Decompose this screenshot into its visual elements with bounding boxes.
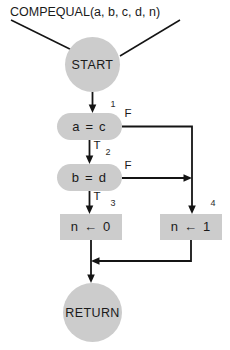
flowchart-diagram: COMPEQUAL(a, b, c, d, n) START 1 a = c F…: [0, 0, 230, 350]
decision2-node-label: b = d: [72, 170, 107, 185]
flowchart-canvas: COMPEQUAL(a, b, c, d, n) START 1 a = c F…: [0, 0, 230, 350]
procedure-title: COMPEQUAL(a, b, c, d, n): [10, 5, 160, 19]
branch-label-decision1-true: T: [93, 139, 100, 151]
step-number-4: 4: [210, 198, 215, 208]
edge-process-right-to-merge: [98, 240, 191, 261]
start-node-label: START: [72, 58, 114, 72]
step-number-1: 1: [110, 99, 115, 109]
arrowhead-start-to-decision1: [89, 105, 97, 114]
title-leader-line-right: [120, 20, 180, 56]
step-number-3: 3: [110, 198, 115, 208]
branch-label-decision2-false: F: [124, 159, 131, 171]
arrowhead-process-right-merge: [91, 257, 100, 265]
end-node-label: RETURN: [65, 306, 119, 320]
branch-label-decision2-true: T: [93, 190, 100, 202]
arrowhead-decision2-to-process-left: [86, 206, 94, 215]
branch-label-decision1-false: F: [124, 107, 131, 119]
arrowhead-decision1-to-decision2: [86, 156, 94, 165]
arrowhead-decision1-false: [188, 206, 196, 215]
process-left-node-label: n ← 0: [71, 219, 112, 234]
edge-decision1-false: [122, 127, 192, 208]
step-number-2: 2: [105, 147, 110, 157]
arrowhead-decision2-false: [184, 174, 193, 182]
arrowhead-to-return: [87, 275, 95, 284]
decision1-node-label: a = c: [72, 119, 107, 134]
process-right-node-label: n ← 1: [171, 219, 212, 234]
